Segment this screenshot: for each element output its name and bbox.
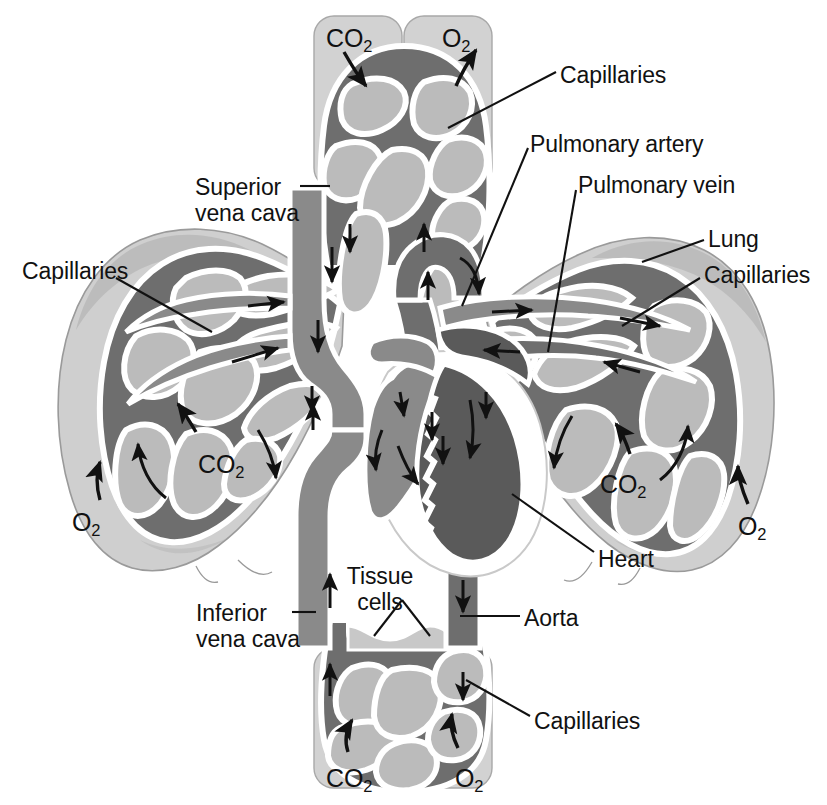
diagram-canvas: [0, 0, 827, 805]
label-superior-vena-cava: Superior vena cava: [195, 174, 299, 226]
label-pulmonary-vein: Pulmonary vein: [578, 172, 735, 198]
label-o2-head-tissue: O2: [442, 24, 470, 52]
label-capillaries-head: Capillaries: [560, 62, 666, 88]
label-capillaries-right-lung: Capillaries: [704, 262, 810, 288]
label-co2-body-tissue: CO2: [326, 764, 372, 792]
label-inferior-vena-cava: Inferior vena cava: [196, 600, 300, 652]
label-capillaries-left-lung: Capillaries: [22, 258, 128, 284]
label-o2-right-lung: O2: [738, 512, 766, 540]
label-tissue-cells: Tissue cells: [330, 563, 430, 615]
label-o2-body-tissue: O2: [455, 764, 483, 792]
label-co2-right-lung: CO2: [600, 470, 646, 498]
label-aorta: Aorta: [524, 605, 578, 631]
label-heart: Heart: [598, 546, 654, 572]
label-pulmonary-artery: Pulmonary artery: [530, 131, 704, 157]
circulatory-system-diagram: CO2 O2 Capillaries Pulmonary artery Pulm…: [0, 0, 827, 805]
label-co2-left-lung: CO2: [198, 450, 244, 478]
label-o2-left-lung: O2: [72, 508, 100, 536]
label-lung-right: Lung: [708, 226, 759, 252]
label-co2-head-tissue: CO2: [326, 24, 372, 52]
label-capillaries-body: Capillaries: [534, 708, 640, 734]
